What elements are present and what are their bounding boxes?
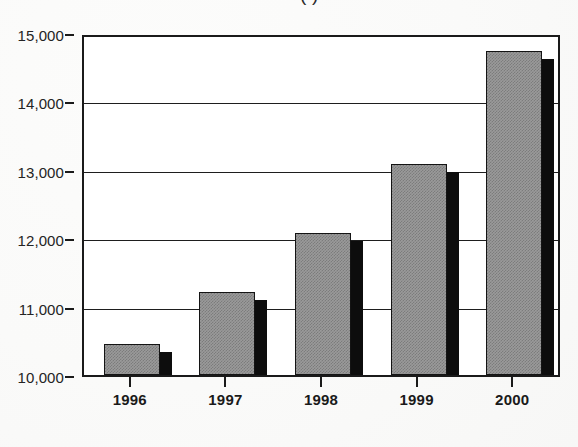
x-tick-mark-1997 — [224, 377, 226, 387]
bar-face-1998[interactable] — [295, 233, 351, 375]
x-tick-mark-1998 — [320, 377, 322, 387]
y-tick-label-12000: 12,000 — [18, 232, 64, 249]
x-tick-mark-2000 — [511, 377, 513, 387]
bar-side-1996 — [158, 352, 172, 375]
bar-side-2000 — [540, 59, 554, 375]
bar-side-1998 — [349, 241, 363, 375]
bar-group-1996[interactable] — [104, 344, 174, 375]
bar-chart-figure: ( ) 15,000 14,000 13,000 12,000 11,000 1… — [0, 0, 578, 447]
y-tick-mark-14000 — [65, 102, 74, 104]
bar-face-1996[interactable] — [104, 344, 160, 375]
bar-group-1999[interactable] — [391, 164, 461, 375]
x-tick-label-1997: 1997 — [208, 391, 242, 408]
x-tick-mark-1999 — [416, 377, 418, 387]
bar-side-1999 — [445, 172, 459, 375]
y-tick-mark-13000 — [65, 171, 74, 173]
y-tick-label-14000: 14,000 — [18, 95, 64, 112]
bar-group-1998[interactable] — [295, 233, 365, 375]
bar-face-1997[interactable] — [199, 292, 255, 375]
y-tick-label-15000: 15,000 — [18, 27, 64, 44]
bar-face-2000[interactable] — [486, 51, 542, 375]
chart-title: ( ) — [300, 0, 550, 6]
bar-group-2000[interactable] — [486, 51, 556, 375]
y-axis: 15,000 14,000 13,000 12,000 11,000 10,00… — [0, 35, 74, 377]
x-tick-label-2000: 2000 — [495, 391, 529, 408]
y-tick-label-11000: 11,000 — [19, 300, 64, 317]
y-tick-mark-12000 — [65, 239, 74, 241]
y-tick-mark-15000 — [65, 34, 74, 36]
plot-area — [82, 35, 560, 377]
bar-face-1999[interactable] — [391, 164, 447, 375]
chart-title-text: ( ) — [300, 0, 550, 6]
y-tick-mark-11000 — [65, 308, 74, 310]
y-tick-mark-10000 — [65, 376, 74, 378]
bar-side-1997 — [253, 300, 267, 375]
bar-group-1997[interactable] — [199, 292, 269, 375]
y-tick-label-10000: 10,000 — [18, 369, 64, 386]
y-tick-label-13000: 13,000 — [18, 163, 64, 180]
x-tick-mark-1996 — [129, 377, 131, 387]
x-tick-label-1998: 1998 — [304, 391, 338, 408]
x-axis: 1996 1997 1998 1999 2000 — [82, 377, 560, 427]
x-tick-label-1999: 1999 — [400, 391, 434, 408]
x-tick-label-1996: 1996 — [113, 391, 147, 408]
